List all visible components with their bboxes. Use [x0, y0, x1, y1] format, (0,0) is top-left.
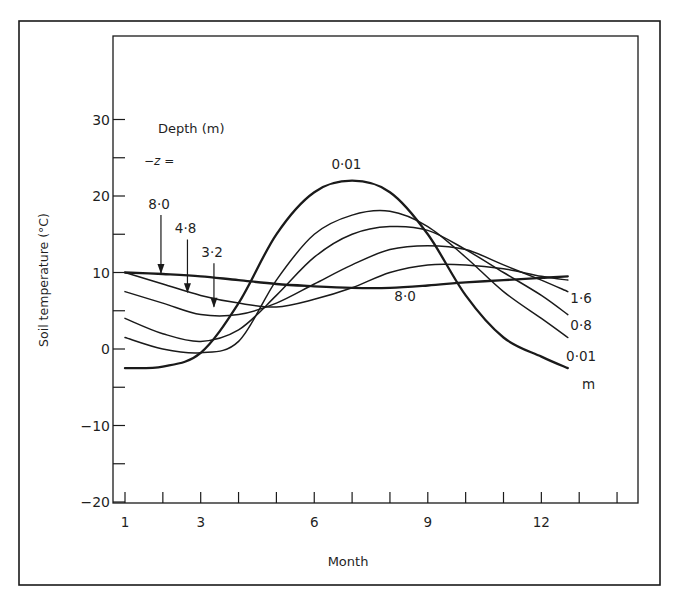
y-tick-label: 30 — [92, 112, 110, 128]
legend-title: Depth (m) — [158, 121, 225, 136]
curve-label: 1·6 — [570, 290, 591, 306]
depth-curve-1-6 — [125, 226, 568, 341]
curve-label: 8·0 — [394, 288, 415, 304]
x-tick-label: 9 — [424, 514, 433, 530]
arrow-down-icon — [210, 298, 217, 308]
y-tick-label: 0 — [101, 341, 110, 357]
curve-label: 0·8 — [570, 317, 591, 333]
curve-label: 4·8 — [175, 220, 196, 236]
depth-curve-8-0 — [125, 273, 568, 289]
x-tick-label: 1 — [121, 514, 130, 530]
depth-curves — [125, 181, 568, 369]
y-tick-label: −10 — [80, 418, 110, 434]
plot-area-frame — [113, 36, 638, 503]
outer-frame — [19, 21, 660, 585]
curve-label: 0·01 — [331, 156, 361, 172]
y-axis-ticks: 3020100−10−20 — [80, 112, 125, 511]
x-tick-label: 6 — [310, 514, 319, 530]
x-tick-label: 12 — [533, 514, 550, 530]
chart-svg: 3020100−10−20 136912 0·018·08·04·83·21·6… — [0, 0, 680, 604]
curve-label: m — [582, 376, 595, 392]
arrow-down-icon — [157, 264, 164, 274]
x-axis-ticks: 136912 — [121, 492, 617, 530]
legend-subtitle: −z = — [144, 154, 174, 168]
y-tick-label: 20 — [92, 188, 110, 204]
y-axis-title: Soil temperature (°C) — [36, 213, 51, 347]
curve-label: 0·01 — [566, 348, 596, 364]
x-tick-label: 3 — [196, 514, 205, 530]
y-tick-label: −20 — [80, 494, 110, 510]
curve-label: 8·0 — [148, 196, 169, 212]
x-axis-title: Month — [328, 554, 369, 569]
y-tick-label: 10 — [92, 265, 110, 281]
soil-temperature-figure: 3020100−10−20 136912 0·018·08·04·83·21·6… — [0, 0, 680, 604]
curve-label: 3·2 — [201, 244, 222, 260]
